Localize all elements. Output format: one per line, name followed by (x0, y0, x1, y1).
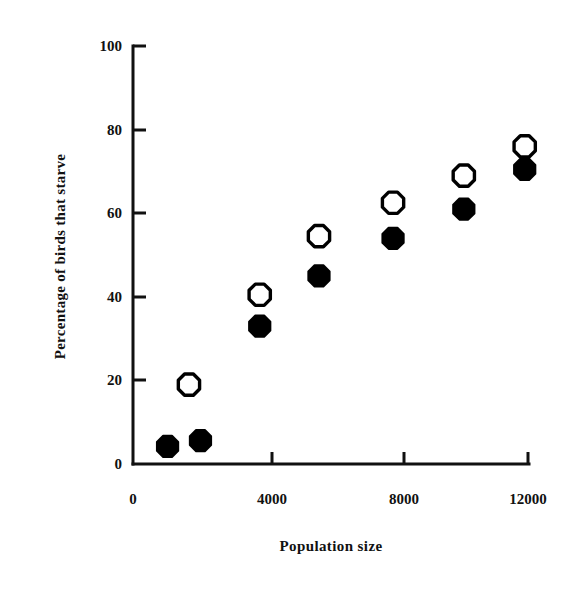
data-point (453, 165, 474, 186)
data-point (382, 228, 403, 249)
data-point (249, 284, 270, 305)
data-markers-layer (157, 136, 535, 457)
x-axis-ticks (272, 452, 528, 464)
data-point (249, 315, 270, 336)
series-filled-markers (157, 159, 535, 457)
data-point (453, 198, 474, 219)
plot-area (0, 0, 584, 597)
series-open-markers (178, 136, 535, 396)
data-point (178, 374, 199, 395)
data-point (382, 192, 403, 213)
axis-spines (133, 46, 529, 464)
data-point (308, 226, 329, 247)
data-point (514, 159, 535, 180)
y-axis-ticks (133, 46, 146, 380)
data-point (514, 136, 535, 157)
scatter-chart: Percentage of birds that starve Populati… (0, 0, 584, 597)
data-point (157, 436, 178, 457)
data-point (308, 265, 329, 286)
data-point (190, 430, 211, 451)
